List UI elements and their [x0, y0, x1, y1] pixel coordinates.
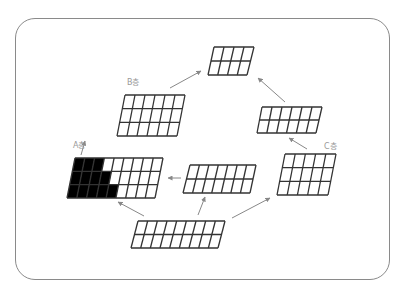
arrow	[289, 138, 307, 149]
arrow	[118, 202, 144, 216]
arrow	[198, 197, 205, 215]
arrow	[170, 71, 201, 88]
label-a-layer: A층	[73, 141, 85, 150]
grid-right	[257, 107, 322, 133]
label-b-layer: B층	[127, 78, 140, 87]
label-c-layer: C층	[324, 142, 337, 151]
grid-a	[67, 158, 163, 198]
grid-top	[208, 47, 254, 75]
layer-diagram: A층 B층 C층	[0, 0, 406, 294]
grid-bottom	[131, 221, 225, 248]
arrow	[232, 198, 270, 218]
grid-c	[277, 154, 336, 195]
grid-middle	[183, 165, 256, 193]
grid-b	[117, 95, 185, 136]
arrow	[258, 78, 285, 102]
